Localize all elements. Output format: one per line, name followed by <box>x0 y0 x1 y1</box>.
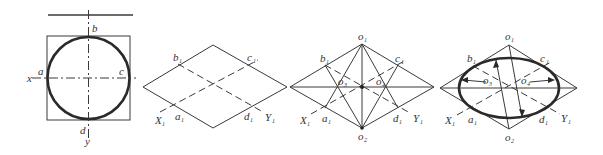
svg-text:1: 1 <box>401 59 404 65</box>
svg-text:1: 1 <box>399 119 402 125</box>
svg-text:1: 1 <box>473 59 476 65</box>
svg-text:1: 1 <box>364 37 367 43</box>
svg-text:2: 2 <box>511 138 514 144</box>
svg-text:3: 3 <box>488 81 492 87</box>
svg-text:1: 1 <box>250 117 253 123</box>
svg-text:2: 2 <box>364 137 367 143</box>
label-y: y <box>84 135 90 147</box>
svg-text:1: 1 <box>328 119 331 125</box>
arrowhead-up-icon <box>493 60 499 68</box>
label-a: a <box>38 65 44 77</box>
label-c1: c <box>540 52 545 64</box>
svg-text:1: 1 <box>179 58 182 64</box>
axis-Y1 <box>325 65 410 113</box>
svg-text:1: 1 <box>326 59 329 65</box>
svg-text:1: 1 <box>568 119 571 125</box>
svg-text:1: 1 <box>253 58 256 64</box>
svg-text:1: 1 <box>272 118 275 124</box>
svg-text:1: 1 <box>545 120 548 126</box>
panel-circle-orthographic: b a c x d y <box>26 10 136 147</box>
axis-Y1 <box>178 64 263 112</box>
line-o1-a1 <box>325 44 362 108</box>
svg-text:1: 1 <box>511 37 514 43</box>
label-b: b <box>92 22 98 34</box>
panel-arc-centers: o 1 o 2 o 3 o 4 b 1 c 1 a 1 d 1 X 1 Y 1 <box>290 30 434 143</box>
label-c: c <box>119 65 124 77</box>
isometric-ellipse-construction-diagram: b a c x d y b 1 c 1 a 1 d 1 X 1 Y 1 o <box>0 0 603 155</box>
svg-text:4: 4 <box>382 82 385 88</box>
svg-text:1: 1 <box>420 119 423 125</box>
label-c1: c <box>247 51 252 63</box>
label-x: x <box>26 72 32 84</box>
label-c1: c <box>395 52 400 64</box>
svg-text:3: 3 <box>343 82 347 88</box>
svg-text:4: 4 <box>527 81 530 87</box>
svg-text:1: 1 <box>162 121 165 127</box>
svg-text:1: 1 <box>546 59 549 65</box>
panel-isometric-rhombus: b 1 c 1 a 1 d 1 X 1 Y 1 <box>143 45 287 128</box>
svg-text:1: 1 <box>181 117 184 123</box>
panel-isometric-ellipse: o 1 o 2 o 3 o 4 b 1 c 1 a 1 d 1 X 1 Y 1 <box>440 30 577 144</box>
arrowhead-right-icon <box>548 77 555 83</box>
svg-text:1: 1 <box>307 121 310 127</box>
svg-text:1: 1 <box>474 120 477 126</box>
svg-text:1: 1 <box>452 121 455 127</box>
center-point <box>360 85 364 89</box>
